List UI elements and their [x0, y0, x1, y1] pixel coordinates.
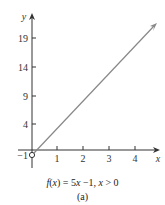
y-axis-label: y: [21, 11, 27, 22]
y-tick-label: 19: [18, 33, 28, 44]
x-tick-label: 3: [107, 153, 112, 164]
chart: 1 2 3 4 x −1 4 9 14 19 y: [0, 0, 165, 205]
y-tick-label: 4: [23, 119, 28, 130]
y-tick-label: 9: [23, 91, 28, 102]
x-ticks: [57, 146, 135, 150]
x-axis-label: x: [155, 153, 161, 164]
open-circle-marker: [29, 152, 34, 157]
subfigure-label: (a): [0, 191, 165, 202]
x-tick-label: 4: [133, 153, 138, 164]
y-ticks: [32, 38, 36, 124]
x-tick-label: 2: [81, 153, 86, 164]
function-line: [34, 26, 154, 153]
y-tick-label: 14: [18, 62, 28, 73]
x-tick-label: 1: [55, 153, 60, 164]
function-caption: f(x) = 5x −1, x > 0: [0, 177, 165, 188]
y-tick-label: −1: [17, 150, 28, 161]
